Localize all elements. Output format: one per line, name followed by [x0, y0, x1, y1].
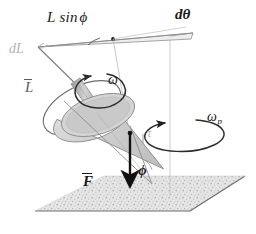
figure-canvas: L sin ϕ dθ dL L ω ωp τ ϕ F — [0, 0, 256, 234]
label-omega-p: ωp — [207, 110, 222, 126]
label-f-vector: F — [83, 174, 93, 189]
label-dl: dL — [9, 42, 24, 56]
label-omega: ω — [108, 73, 118, 87]
label-d-theta: dθ — [175, 7, 190, 22]
label-phi: ϕ — [138, 163, 147, 178]
label-tau: τ — [147, 127, 151, 139]
label-l-vector: L — [25, 80, 33, 95]
label-l-sin-phi: L sin ϕ — [47, 10, 87, 25]
ground-plane — [35, 176, 245, 211]
